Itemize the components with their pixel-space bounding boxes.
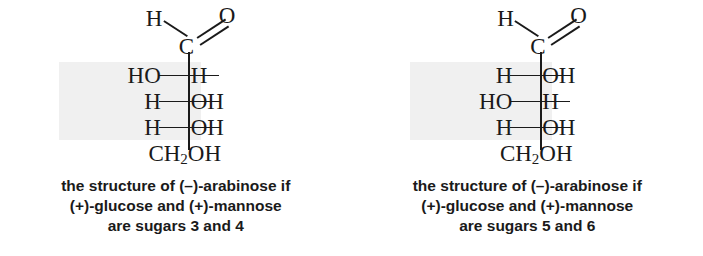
carbonyl-carbon-label: C xyxy=(530,35,545,58)
tail-formula: CH2OH xyxy=(148,141,221,166)
stereocenter-row: HO H xyxy=(397,88,657,114)
caption-line-2: (+)-glucose and (+)-mannose xyxy=(362,196,692,216)
aldehyde-hydrogen-label: H xyxy=(146,7,163,30)
stereocenter-rows: H OH HO H H OH xyxy=(397,62,657,140)
substituent-right: OH xyxy=(540,116,575,139)
caption-line-1: the structure of (–)-arabinose if xyxy=(11,176,341,196)
caption-line-2: (+)-glucose and (+)-mannose xyxy=(11,196,341,216)
structure-panel-left: H C O HO H H OH H xyxy=(0,0,352,256)
substituent-right: OH xyxy=(189,90,224,113)
fischer-projection-figure: H C O HO H H OH H xyxy=(0,0,703,256)
caption-line-3: are sugars 5 and 6 xyxy=(362,216,692,236)
stereocenter-row: H OH xyxy=(397,62,657,88)
tail-ch: CH xyxy=(148,141,180,166)
carbonyl-oxygen-label: O xyxy=(219,4,236,27)
terminal-hydroxymethyl-group: CH2OH xyxy=(397,142,657,167)
bond-c-o-lower xyxy=(199,26,228,46)
substituent-right: H xyxy=(189,64,208,87)
fischer-structure-right: H C O H OH HO H H xyxy=(397,0,657,172)
tail-formula: CH2OH xyxy=(500,141,573,166)
aldehyde-group: H C O xyxy=(46,2,306,62)
caption-line-3: are sugars 3 and 4 xyxy=(11,216,341,236)
bond-c-o-lower xyxy=(551,26,580,46)
caption-line-1: the structure of (–)-arabinose if xyxy=(362,176,692,196)
substituent-left: HO xyxy=(479,90,514,113)
substituent-right: OH xyxy=(540,64,575,87)
substituent-right: OH xyxy=(189,116,224,139)
tail-oh: OH xyxy=(539,141,572,166)
stereocenter-rows: HO H H OH H OH xyxy=(46,62,306,140)
tail-oh: OH xyxy=(188,141,221,166)
substituent-left: HO xyxy=(128,64,163,87)
stereocenter-row: H OH xyxy=(46,114,306,140)
fischer-structure-left: H C O HO H H OH H xyxy=(46,0,306,172)
caption-left: the structure of (–)-arabinose if (+)-gl… xyxy=(11,176,341,235)
structure-panel-right: H C O H OH HO H H xyxy=(352,0,703,256)
caption-right: the structure of (–)-arabinose if (+)-gl… xyxy=(362,176,692,235)
aldehyde-group: H C O xyxy=(397,2,657,62)
terminal-hydroxymethyl-group: CH2OH xyxy=(46,142,306,167)
aldehyde-hydrogen-label: H xyxy=(497,7,514,30)
stereocenter-row: HO H xyxy=(46,62,306,88)
carbonyl-oxygen-label: O xyxy=(570,4,587,27)
substituent-right: H xyxy=(540,90,559,113)
tail-subscript: 2 xyxy=(180,151,188,167)
stereocenter-row: H OH xyxy=(46,88,306,114)
tail-ch: CH xyxy=(500,141,532,166)
carbonyl-carbon-label: C xyxy=(179,35,194,58)
stereocenter-row: H OH xyxy=(397,114,657,140)
